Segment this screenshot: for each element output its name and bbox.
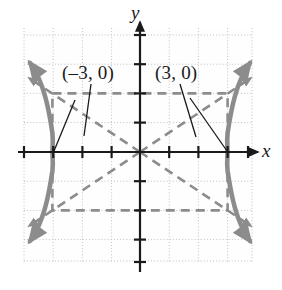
vertex-label-left: (–3, 0)	[62, 62, 114, 84]
hyperbola-figure: (–3, 0) (3, 0) y x	[0, 0, 282, 290]
x-axis-label: x	[262, 140, 270, 162]
vertex-label-right: (3, 0)	[155, 62, 197, 84]
y-axis-label: y	[131, 2, 139, 24]
graph-canvas	[0, 0, 282, 290]
